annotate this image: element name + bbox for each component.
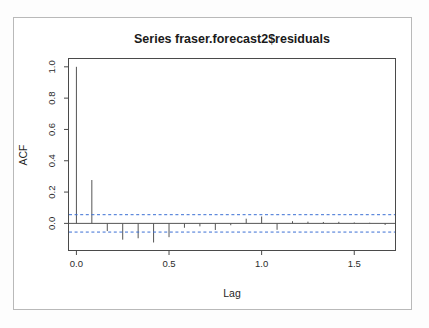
y-axis-ticks: 0.00.20.40.60.81.0 — [47, 60, 70, 230]
plot-frame — [69, 59, 396, 251]
plot-title: Series fraser.forecast2$residuals — [134, 32, 330, 46]
y-axis-title: ACF — [17, 145, 29, 166]
acf-plot: Series fraser.forecast2$residuals 0.00.2… — [0, 0, 429, 328]
y-tick-label: 0.0 — [47, 217, 58, 230]
x-axis-ticks: 0.00.51.01.5 — [70, 250, 361, 269]
y-tick-label: 0.2 — [47, 185, 58, 198]
x-axis-title: Lag — [223, 287, 241, 299]
y-tick-label: 0.4 — [47, 154, 58, 167]
x-tick-label: 1.0 — [255, 258, 268, 269]
y-tick-label: 0.8 — [47, 92, 58, 105]
y-tick-label: 0.6 — [47, 123, 58, 136]
x-tick-label: 0.0 — [70, 258, 83, 269]
figure-root: Series fraser.forecast2$residuals 0.00.2… — [0, 0, 429, 328]
acf-spikes — [76, 67, 385, 243]
x-tick-label: 0.5 — [162, 258, 175, 269]
x-tick-label: 1.5 — [348, 258, 361, 269]
y-tick-label: 1.0 — [47, 60, 58, 73]
